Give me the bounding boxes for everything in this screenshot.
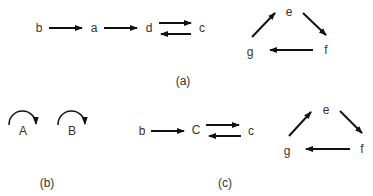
diagram-canvas <box>0 0 373 196</box>
node-d: d <box>146 22 153 34</box>
panel-b-loops <box>9 111 85 125</box>
node-c-c: c <box>248 125 254 137</box>
node-A: A <box>19 125 27 137</box>
node-g: g <box>247 46 254 58</box>
node-g-c: g <box>284 145 291 157</box>
caption-c: (c) <box>218 177 232 189</box>
self-loop-B <box>58 111 85 125</box>
node-e: e <box>286 6 293 18</box>
self-loop-A <box>9 111 36 125</box>
node-b: b <box>36 22 43 34</box>
node-c: c <box>199 22 205 34</box>
caption-b: (b) <box>40 177 55 189</box>
node-b-c: b <box>139 125 146 137</box>
node-f: f <box>324 44 327 56</box>
node-f-c: f <box>360 143 363 155</box>
caption-a: (a) <box>176 75 191 87</box>
node-B: B <box>68 125 76 137</box>
edge-e-f-c <box>340 111 362 133</box>
node-e-c: e <box>323 104 330 116</box>
node-a: a <box>91 22 98 34</box>
edge-g-e <box>252 13 275 37</box>
edge-e-f <box>303 13 326 35</box>
edge-g-e-c <box>289 112 311 136</box>
panel-c-edges <box>151 111 362 149</box>
node-C: C <box>192 124 201 136</box>
